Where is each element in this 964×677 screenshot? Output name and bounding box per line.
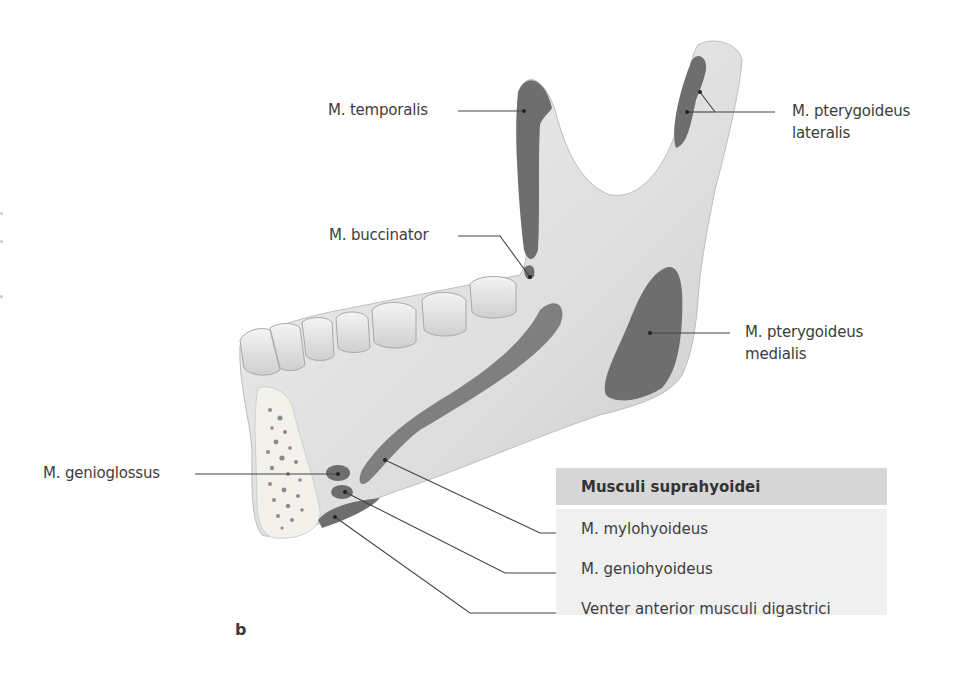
- label-pterygoideus-medialis-line1: M. pterygoideus: [745, 323, 863, 342]
- label-pterygoideus-lateralis-line2: lateralis: [792, 124, 850, 143]
- label-genioglossus: M. genioglossus: [43, 464, 160, 483]
- legend-title: Musculi suprahyoidei: [556, 468, 887, 505]
- edge-mark: [0, 240, 3, 243]
- legend-item-digastricus: Venter anterior musculi digastrici: [581, 600, 831, 618]
- legend-box: Musculi suprahyoidei M. mylohyoideus M. …: [556, 468, 887, 615]
- label-temporalis: M. temporalis: [328, 101, 428, 120]
- edge-mark: [0, 212, 3, 215]
- legend-item-mylohyoideus: M. mylohyoideus: [581, 520, 708, 538]
- mandible-figure: M. temporalis M. buccinator M. pterygoid…: [0, 0, 964, 677]
- geniohyoideus-attachment: [331, 485, 353, 499]
- label-pterygoideus-medialis-line2: medialis: [745, 345, 806, 364]
- legend-body: M. mylohyoideus M. geniohyoideus Venter …: [556, 509, 887, 615]
- label-pterygoideus-lateralis-line1: M. pterygoideus: [792, 102, 910, 121]
- figure-letter: b: [235, 620, 246, 639]
- edge-mark: [0, 295, 3, 298]
- legend-item-geniohyoideus: M. geniohyoideus: [581, 560, 713, 578]
- label-buccinator: M. buccinator: [329, 226, 429, 245]
